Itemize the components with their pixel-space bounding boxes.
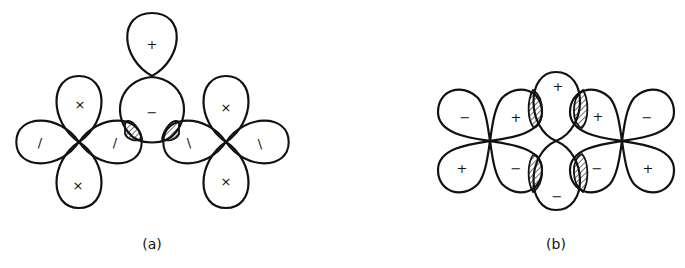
orbital-diagram: + − × × / / [0, 0, 685, 268]
sign-minus: − [552, 189, 563, 204]
sign-plus: + [511, 110, 522, 125]
sign-x: × [75, 97, 86, 112]
sign-minus: − [511, 161, 522, 176]
sign-plus: + [553, 79, 564, 94]
sign-plus: + [147, 37, 158, 52]
sign-x: × [73, 178, 84, 193]
top-lobe: + [127, 13, 177, 76]
sign-x: × [221, 174, 232, 189]
sign-slash: / [38, 135, 43, 150]
panel-a: + − × × / / [16, 13, 288, 252]
center-p-orbital: + − [534, 72, 581, 210]
sign-slash: / [113, 135, 118, 150]
sign-x: × [221, 100, 232, 115]
sign-plus: + [593, 109, 604, 124]
sign-minus: − [592, 161, 603, 176]
caption-b: (b) [546, 236, 566, 252]
left-d-orbital-b: − + + − [438, 90, 542, 193]
caption-a: (a) [142, 236, 162, 252]
sign-plus: + [643, 161, 654, 176]
sign-minus: − [147, 105, 158, 120]
sign-minus: − [460, 110, 471, 125]
sign-backslash: \ [187, 135, 192, 150]
panel-b: + − − + + − + − − + (b [438, 72, 674, 252]
sign-backslash: \ [258, 136, 263, 151]
sign-minus: − [642, 110, 653, 125]
sign-plus: + [457, 161, 468, 176]
